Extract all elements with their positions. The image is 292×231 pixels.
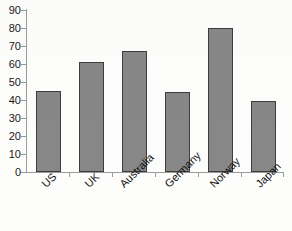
- y-axis-tick-label: 90: [1, 5, 21, 16]
- bar-chart-screenshot: 0 10 20 30 40 50 60 70 80 90 US UK Austr…: [0, 0, 292, 231]
- y-axis-tick: [21, 172, 26, 173]
- y-axis-tick: [21, 154, 26, 155]
- y-axis-tick-label: 60: [1, 59, 21, 70]
- y-axis-tick: [21, 100, 26, 101]
- x-axis-tick: [283, 172, 284, 177]
- x-axis-label-us: US: [40, 171, 59, 190]
- y-axis-tick-label: 40: [1, 95, 21, 106]
- x-axis-tick: [69, 172, 70, 177]
- bar-us: [36, 91, 61, 172]
- y-axis-tick: [21, 82, 26, 83]
- y-axis-tick-label: 20: [1, 131, 21, 142]
- y-axis-tick-label: 10: [1, 149, 21, 160]
- y-axis-tick: [21, 64, 26, 65]
- y-axis-tick-label: 30: [1, 113, 21, 124]
- y-axis-tick-label: 0: [1, 167, 21, 178]
- bar-norway: [208, 28, 233, 172]
- y-axis-tick: [21, 28, 26, 29]
- x-axis-tick: [112, 172, 113, 177]
- y-axis-tick: [21, 46, 26, 47]
- y-axis-tick-label: 70: [1, 41, 21, 52]
- y-axis-tick-label: 80: [1, 23, 21, 34]
- y-axis-tick: [21, 118, 26, 119]
- y-axis-tick: [21, 10, 26, 11]
- y-axis-line: [26, 9, 27, 173]
- y-axis-tick-label: 50: [1, 77, 21, 88]
- x-axis-tick: [155, 172, 156, 177]
- bar-uk: [79, 62, 104, 172]
- y-axis-tick: [21, 136, 26, 137]
- x-axis-label-uk: UK: [83, 171, 102, 190]
- chart-plot-area: 0 10 20 30 40 50 60 70 80 90 US UK Austr…: [0, 0, 292, 231]
- x-axis-tick: [198, 172, 199, 177]
- x-axis-tick: [241, 172, 242, 177]
